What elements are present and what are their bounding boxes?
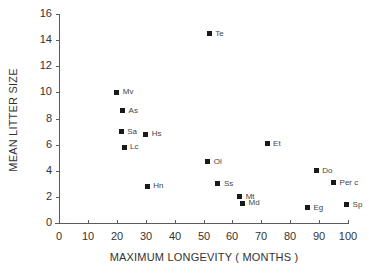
data-point-marker [344,202,349,207]
y-tick-mark [56,66,60,67]
x-tick-label: 70 [246,231,276,242]
data-point-marker [145,184,150,189]
data-point-label: Hn [153,182,163,190]
x-tick-mark [348,220,349,224]
scatter-chart: 0246810121416 0102030405060708090100 TeM… [0,0,369,274]
x-tick-label: 60 [217,231,247,242]
data-point-marker [119,129,124,134]
data-point-marker [305,205,310,210]
y-tick-label: 12 [32,60,52,71]
y-tick-label: 14 [32,34,52,45]
y-tick-mark [56,197,60,198]
data-point-label: Sp [353,201,363,209]
x-tick-label: 90 [304,231,334,242]
data-point-marker [122,145,127,150]
x-axis-line [55,223,349,224]
x-tick-label: 100 [333,231,363,242]
data-point-marker [331,180,336,185]
x-tick-mark [88,220,89,224]
x-tick-mark [146,220,147,224]
y-tick-mark [56,171,60,172]
y-tick-label: 10 [32,86,52,97]
data-point-label: Hs [152,130,162,138]
y-tick-label: 16 [32,8,52,19]
data-point-marker [237,194,242,199]
data-point-label: Mv [123,88,134,96]
data-point-label: Ss [224,180,233,188]
y-tick-label: 0 [32,217,52,228]
data-point-marker [207,31,212,36]
data-point-marker [143,132,148,137]
x-tick-mark [319,220,320,224]
data-point-marker [240,201,245,206]
x-tick-label: 20 [102,231,132,242]
data-point-marker [205,159,210,164]
data-point-label: Lc [130,143,138,151]
y-tick-mark [56,92,60,93]
data-point-marker [114,90,119,95]
x-tick-mark [175,220,176,224]
x-tick-mark [204,220,205,224]
data-point-marker [215,181,220,186]
x-tick-label: 10 [73,231,103,242]
data-point-label: Md [249,199,260,207]
data-point-label: Sa [127,128,137,136]
data-point-marker [314,168,319,173]
y-tick-mark [56,40,60,41]
data-point-label: Per c [340,179,359,187]
y-axis-title: MEAN LITTER SIZE [7,68,19,171]
x-tick-label: 30 [131,231,161,242]
x-tick-mark [290,220,291,224]
data-point-label: As [129,107,138,115]
x-tick-mark [232,220,233,224]
y-tick-mark [56,14,60,15]
y-tick-label: 4 [32,165,52,176]
x-tick-mark [59,220,60,224]
data-point-marker [265,141,270,146]
data-point-marker [120,108,125,113]
x-tick-mark [117,220,118,224]
data-point-label: Te [215,30,223,38]
data-point-label: Do [322,167,332,175]
data-point-label: Eg [314,204,324,212]
y-tick-label: 8 [32,113,52,124]
x-tick-label: 0 [44,231,74,242]
data-point-label: Ol [214,158,222,166]
x-axis-title: MAXIMUM LONGEVITY ( MONTHS ) [59,251,349,263]
y-tick-mark [56,119,60,120]
x-tick-label: 40 [160,231,190,242]
x-tick-label: 80 [275,231,305,242]
x-tick-mark [261,220,262,224]
y-tick-label: 6 [32,139,52,150]
x-tick-label: 50 [189,231,219,242]
data-point-label: Et [273,140,281,148]
y-tick-mark [56,145,60,146]
y-tick-label: 2 [32,191,52,202]
